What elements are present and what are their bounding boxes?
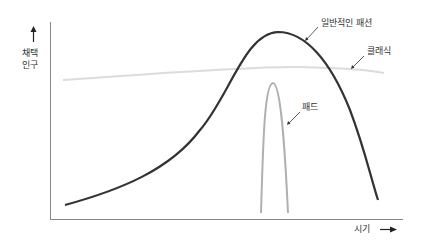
y-axis-arrow-icon xyxy=(31,26,37,42)
x-axis-label: 시기 xyxy=(354,224,370,235)
classic-label: 클래식 xyxy=(367,46,391,57)
x-axis-arrow-icon xyxy=(380,227,397,233)
classic-leader xyxy=(353,56,364,67)
fad-label: 패드 xyxy=(302,102,318,113)
fad-leader xyxy=(289,112,300,123)
fashion-leader xyxy=(307,27,318,39)
fad-curve xyxy=(261,83,288,213)
fashion-curve xyxy=(65,32,378,205)
fashion-label: 일반적인 패션 xyxy=(321,18,372,29)
y-axis-label-line1: 채택 xyxy=(22,48,38,59)
y-axis-label-line2: 인구 xyxy=(22,60,38,71)
plc-diagram xyxy=(0,0,424,246)
